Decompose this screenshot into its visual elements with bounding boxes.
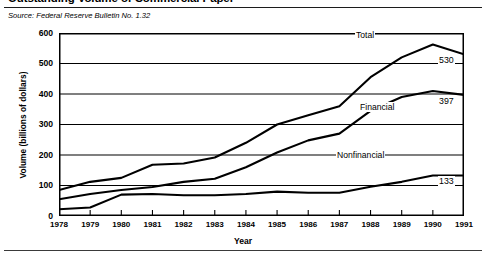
x-axis-tick-1981: 1981 bbox=[135, 221, 169, 229]
line-chart-svg bbox=[59, 33, 464, 216]
y-axis-tick-600: 600 bbox=[23, 29, 53, 38]
data-series-lines bbox=[59, 45, 464, 210]
page-title: Outstanding Volume of Commercial Paper bbox=[8, 0, 234, 4]
x-axis-tick-1983: 1983 bbox=[198, 221, 232, 229]
x-axis-tick-1987: 1987 bbox=[322, 221, 356, 229]
gridlines bbox=[59, 64, 464, 186]
series-line-financial bbox=[59, 91, 464, 199]
divider-bottom bbox=[4, 250, 482, 251]
x-axis-tick-1980: 1980 bbox=[104, 221, 138, 229]
x-axis-tick-1982: 1982 bbox=[167, 221, 201, 229]
x-axis-tick-1984: 1984 bbox=[229, 221, 263, 229]
y-axis-tick-200: 200 bbox=[23, 151, 53, 160]
figure-source-note: Source: Federal Reserve Bulletin No. 1.3… bbox=[8, 11, 150, 20]
series-line-nonfinancial bbox=[59, 175, 464, 209]
x-axis-title: Year bbox=[0, 236, 486, 246]
x-axis-tick-1990: 1990 bbox=[416, 221, 450, 229]
x-axis-tick-1978: 1978 bbox=[42, 221, 76, 229]
series-line-total bbox=[59, 45, 464, 190]
x-axis-tick-1979: 1979 bbox=[73, 221, 107, 229]
y-axis-tick-labels: 0100200300400500600 bbox=[19, 33, 53, 216]
x-axis-tick-1988: 1988 bbox=[354, 221, 388, 229]
series-label-financial: Financial bbox=[359, 102, 395, 112]
y-axis-tick-400: 400 bbox=[23, 90, 53, 99]
x-axis-tick-1991: 1991 bbox=[447, 221, 481, 229]
x-axis-tick-1985: 1985 bbox=[260, 221, 294, 229]
series-end-value-financial: 397 bbox=[438, 96, 455, 106]
x-axis-tick-1986: 1986 bbox=[291, 221, 325, 229]
divider-top bbox=[4, 7, 482, 8]
y-axis-tick-100: 100 bbox=[23, 181, 53, 190]
plot-area bbox=[59, 33, 464, 216]
x-axis-tick-1989: 1989 bbox=[385, 221, 419, 229]
y-axis-tick-0: 0 bbox=[23, 212, 53, 221]
x-axis-tick-labels: 1978197919801981198219831984198519861987… bbox=[59, 221, 464, 233]
y-axis-tick-300: 300 bbox=[23, 120, 53, 129]
series-label-nonfinancial: Nonfinancial bbox=[336, 150, 385, 160]
figure-commercial-paper-volume: Outstanding Volume of Commercial Paper S… bbox=[0, 0, 486, 259]
series-end-value-nonfinancial: 133 bbox=[438, 176, 455, 186]
series-end-value-total: 530 bbox=[438, 55, 455, 65]
y-axis-tick-500: 500 bbox=[23, 59, 53, 68]
series-label-total: Total bbox=[355, 30, 375, 40]
